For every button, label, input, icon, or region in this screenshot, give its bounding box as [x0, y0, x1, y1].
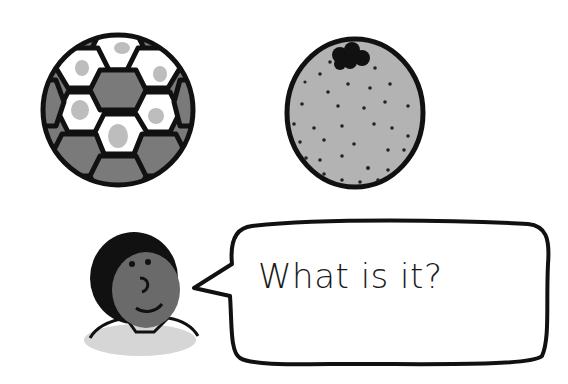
soccer-ball-illustration [38, 30, 198, 190]
orange-illustration [280, 32, 430, 192]
speech-bubble-text: What is it? [258, 256, 442, 296]
